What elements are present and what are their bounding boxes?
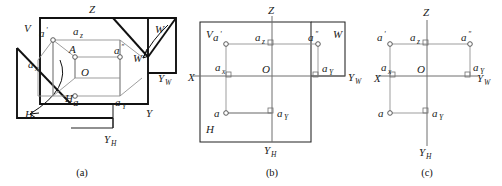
label-point-a-prime-c: a ' (377, 30, 386, 43)
panel-a: V W W H H Z Y Y W Y H A O a ' a " a a x … (17, 3, 176, 179)
label-z-axis-b: Z (268, 4, 275, 16)
svg-text:a: a (410, 31, 416, 43)
label-y-axis-a: Y (146, 107, 154, 119)
label-yh-axis-b: Y H (264, 144, 277, 159)
svg-text:': ' (46, 26, 48, 35)
svg-text:a: a (377, 31, 383, 43)
construction-left-b (226, 44, 272, 113)
svg-text:a: a (322, 62, 328, 74)
caption-b: (b) (266, 167, 279, 179)
svg-text:H: H (425, 152, 432, 161)
svg-text:a: a (473, 61, 479, 73)
label-h-plane-b: H (205, 123, 215, 135)
label-point-a-c: a (378, 107, 384, 119)
label-point-O-c: O (417, 63, 425, 75)
panel-c: Z X Y W Y H a ' a " a O a x a z a Y (373, 6, 491, 179)
svg-text:a: a (213, 31, 219, 43)
svg-text:': ' (220, 30, 222, 39)
svg-text:": " (468, 30, 472, 39)
label-x-axis-b: X (187, 71, 196, 83)
label-yw-axis-a: Y W (158, 72, 172, 87)
label-point-ay-right-b: a Y (322, 62, 334, 77)
label-w-plane-b: W (333, 28, 343, 40)
label-yw-axis-b: Y W (348, 71, 362, 86)
label-point-O-a: O (81, 66, 89, 78)
label-h-folded-a: H (24, 108, 34, 120)
svg-text:a: a (461, 31, 467, 43)
svg-text:a: a (73, 25, 79, 37)
svg-text:H: H (110, 139, 117, 148)
svg-text:x: x (221, 67, 226, 76)
label-yh-axis-c: Y H (419, 146, 432, 161)
svg-text:a: a (215, 61, 221, 73)
svg-text:z: z (79, 31, 83, 40)
label-w-folded-a: W (155, 23, 165, 35)
panel-b: V W H Z X Y W Y H a ' a " a O a x a z (187, 4, 362, 179)
svg-text:Y: Y (439, 113, 444, 122)
label-point-a-a: a (73, 96, 79, 108)
svg-text:a: a (277, 107, 283, 119)
label-point-ay-bottom-c: a Y (432, 107, 444, 122)
label-point-a-b: a (214, 107, 220, 119)
point-a-double-prime-marker-b (316, 42, 321, 47)
point-a-marker-b (224, 111, 229, 116)
box-depth-lines-a (53, 40, 142, 96)
label-point-a-double-prime-c: a " (461, 30, 472, 43)
svg-text:W: W (355, 77, 362, 86)
svg-text:a: a (308, 31, 314, 43)
svg-text:": " (121, 43, 125, 52)
label-point-a-prime-b: a ' (213, 30, 222, 43)
svg-text:a: a (381, 61, 387, 73)
svg-text:x: x (34, 64, 39, 73)
point-a-double-prime-marker-c (468, 42, 473, 47)
label-z-axis-a: Z (89, 3, 96, 15)
point-A-marker-a (73, 55, 78, 60)
svg-text:Y: Y (284, 113, 289, 122)
caption-c: (c) (421, 167, 433, 179)
label-point-az-a: a z (73, 25, 83, 40)
svg-text:W: W (484, 78, 491, 87)
svg-text:a: a (255, 31, 261, 43)
point-a-marker-c (388, 111, 393, 116)
label-z-axis-c: Z (423, 6, 430, 18)
svg-text:a: a (114, 44, 120, 56)
label-w-edge-a: W (133, 52, 143, 64)
label-point-ax-b: a x (215, 61, 226, 76)
label-yh-axis-a: Y H (104, 133, 117, 148)
svg-text:W: W (165, 78, 172, 87)
label-point-a-double-prime-b: a " (308, 30, 319, 43)
svg-text:a: a (39, 27, 45, 39)
label-v-plane-a: V (24, 22, 32, 34)
svg-text:a: a (432, 107, 438, 119)
caption-a: (a) (76, 167, 88, 179)
point-a-prime-marker-c (388, 42, 393, 47)
label-point-ay-bottom-b: a Y (277, 107, 289, 122)
svg-text:z: z (416, 37, 420, 46)
point-a-prime-marker-a (51, 38, 56, 43)
svg-text:': ' (384, 30, 386, 39)
label-point-A-a: A (68, 43, 76, 55)
svg-text:H: H (270, 150, 277, 159)
svg-text:Y: Y (480, 67, 485, 76)
point-a-prime-marker-b (224, 42, 229, 47)
label-point-a-prime-a: a ' (39, 26, 48, 39)
label-x-axis-c: X (373, 72, 382, 84)
svg-text:a: a (28, 58, 34, 70)
svg-text:z: z (261, 37, 265, 46)
projection-diagram-figure: V W W H H Z Y Y W Y H A O a ' a " a a x … (0, 0, 502, 186)
svg-text:a: a (115, 96, 121, 108)
svg-text:": " (315, 30, 319, 39)
label-point-O-b: O (262, 63, 270, 75)
label-point-a-double-prime-a: a " (114, 43, 125, 56)
svg-text:x: x (387, 67, 392, 76)
